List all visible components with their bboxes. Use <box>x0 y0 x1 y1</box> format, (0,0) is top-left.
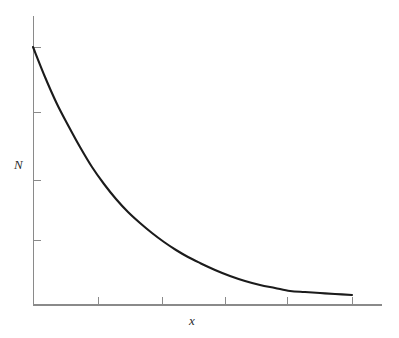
plot-canvas <box>0 0 399 338</box>
exponential-decay-figure: N x <box>0 0 399 338</box>
plot-background <box>0 0 399 338</box>
x-axis-label: x <box>189 314 195 327</box>
y-axis-label: N <box>14 158 23 171</box>
